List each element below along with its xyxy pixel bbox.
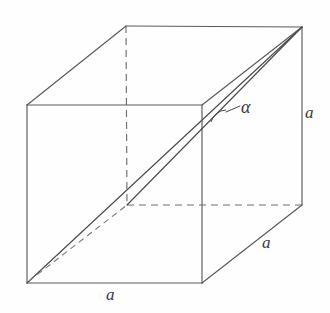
- edge-label-bottom-right: a: [262, 234, 271, 251]
- edge-label-bottom-front: a: [106, 286, 115, 303]
- edge-depth-top-right: [202, 27, 302, 105]
- edge-label-vertical-right: a: [305, 104, 314, 121]
- edge-back-left-vertical-hidden: [126, 26, 127, 205]
- cube-svg: [0, 0, 330, 313]
- space-diagonal: [27, 27, 302, 283]
- alpha-leader-line: [226, 106, 240, 112]
- diagonals-group: [27, 27, 302, 283]
- angle-label-alpha: α: [241, 98, 250, 116]
- edge-back-top: [126, 26, 302, 27]
- angle-arc-alpha: [211, 110, 226, 122]
- base-face-diagonal-hidden: [29, 205, 127, 281]
- cube-diagram: a a a α: [0, 0, 330, 313]
- edge-depth-bottom-right: [202, 205, 302, 283]
- edge-depth-top-left: [27, 26, 126, 105]
